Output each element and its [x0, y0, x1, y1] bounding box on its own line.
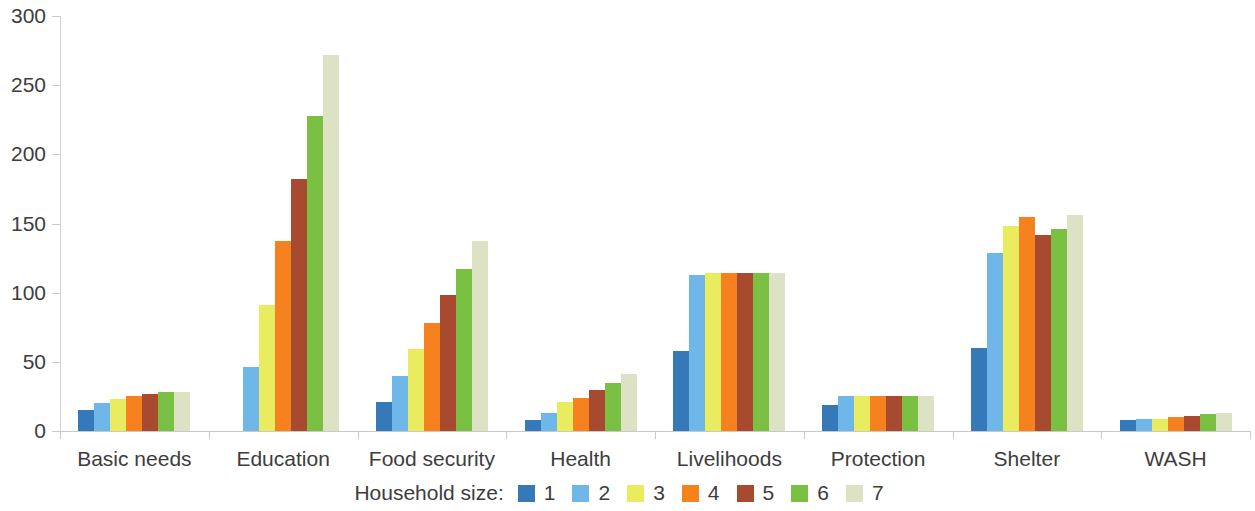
bar[interactable] [737, 273, 753, 431]
bar[interactable] [126, 396, 142, 431]
bar[interactable] [721, 273, 737, 431]
bar-group [358, 16, 507, 431]
bar[interactable] [1051, 229, 1067, 431]
bar[interactable] [323, 55, 339, 431]
bar[interactable] [838, 396, 854, 431]
bar[interactable] [621, 374, 637, 431]
y-axis-tick-mark [52, 154, 60, 155]
legend-item[interactable]: 2 [572, 480, 610, 506]
x-axis-category-label: Basic needs [60, 446, 209, 472]
bar[interactable] [1216, 413, 1232, 431]
bar[interactable] [525, 420, 541, 431]
bar[interactable] [307, 116, 323, 431]
bar-group [209, 16, 358, 431]
x-axis-category-label: Education [209, 446, 358, 472]
bar[interactable] [918, 396, 934, 431]
bar[interactable] [456, 269, 472, 431]
bar[interactable] [886, 396, 902, 431]
x-axis-category-label: WASH [1101, 446, 1250, 472]
x-axis-tick-mark [953, 431, 954, 439]
bar-group [506, 16, 655, 431]
legend-item[interactable]: 7 [846, 480, 884, 506]
bar-group [804, 16, 953, 431]
bar[interactable] [243, 367, 259, 431]
bar[interactable] [472, 241, 488, 431]
bar[interactable] [174, 392, 190, 431]
y-axis-tick-mark [52, 293, 60, 294]
bar[interactable] [854, 396, 870, 431]
bar[interactable] [392, 376, 408, 431]
x-axis-category-label: Shelter [953, 446, 1102, 472]
bar[interactable] [158, 392, 174, 431]
bar[interactable] [259, 305, 275, 431]
y-axis-tick-mark [52, 224, 60, 225]
legend-swatch [682, 485, 699, 502]
x-axis-category-label: Health [506, 446, 655, 472]
x-axis-tick-mark [1101, 431, 1102, 439]
bar[interactable] [1067, 215, 1083, 431]
bar[interactable] [605, 383, 621, 431]
bar[interactable] [769, 273, 785, 431]
bar[interactable] [987, 253, 1003, 431]
legend: Household size: 1234567 [0, 480, 1255, 506]
legend-items: 1234567 [518, 480, 901, 506]
legend-item[interactable]: 1 [518, 480, 556, 506]
bar[interactable] [822, 405, 838, 431]
legend-swatch [737, 485, 754, 502]
bar[interactable] [673, 351, 689, 431]
bar[interactable] [110, 399, 126, 431]
bar[interactable] [902, 396, 918, 431]
bar[interactable] [971, 348, 987, 431]
bar[interactable] [1152, 419, 1168, 431]
bar[interactable] [557, 402, 573, 431]
legend-item[interactable]: 3 [627, 480, 665, 506]
legend-label: 5 [763, 480, 775, 506]
legend-label: 6 [817, 480, 829, 506]
bar[interactable] [753, 273, 769, 431]
bar[interactable] [589, 390, 605, 432]
bar[interactable] [705, 273, 721, 431]
bar[interactable] [408, 349, 424, 431]
y-axis-tick-mark [52, 16, 60, 17]
bar[interactable] [1120, 420, 1136, 431]
bar[interactable] [94, 403, 110, 431]
bar[interactable] [78, 410, 94, 431]
legend-item[interactable]: 4 [682, 480, 720, 506]
x-axis-tick-mark [655, 431, 656, 439]
bar[interactable] [424, 323, 440, 431]
y-axis-tick-label: 50 [23, 349, 46, 374]
bar[interactable] [275, 241, 291, 431]
bar-group [953, 16, 1102, 431]
legend-item[interactable]: 5 [737, 480, 775, 506]
x-axis-category-label: Protection [804, 446, 953, 472]
bar[interactable] [1136, 419, 1152, 431]
legend-label: 1 [544, 480, 556, 506]
bar[interactable] [142, 394, 158, 431]
bar[interactable] [1003, 226, 1019, 431]
legend-item[interactable]: 6 [791, 480, 829, 506]
y-axis-tick-label: 250 [11, 72, 46, 97]
bar[interactable] [573, 398, 589, 431]
bar-group [1101, 16, 1250, 431]
bar[interactable] [440, 295, 456, 431]
bar[interactable] [870, 396, 886, 431]
bar[interactable] [689, 275, 705, 431]
bar[interactable] [1184, 416, 1200, 431]
x-axis-tick-mark [506, 431, 507, 439]
bar[interactable] [376, 402, 392, 431]
y-axis-tick-label: 0 [34, 418, 46, 443]
bar[interactable] [541, 413, 557, 431]
bar[interactable] [291, 179, 307, 431]
legend-swatch [846, 485, 863, 502]
bar-group [60, 16, 209, 431]
bar[interactable] [1019, 217, 1035, 431]
legend-label: 2 [598, 480, 610, 506]
legend-swatch [627, 485, 644, 502]
legend-label: 3 [653, 480, 665, 506]
x-axis-tick-mark [358, 431, 359, 439]
bar[interactable] [1168, 417, 1184, 431]
bar[interactable] [1035, 235, 1051, 431]
bar[interactable] [1200, 414, 1216, 431]
legend-label: 4 [708, 480, 720, 506]
x-axis-tick-mark [1250, 431, 1251, 439]
